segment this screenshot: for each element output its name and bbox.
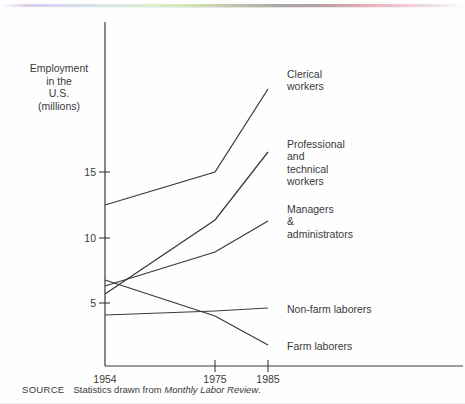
series-line-non-farm-laborers <box>105 308 268 315</box>
source-caption: SOURCEStatistics drawn from Monthly Labo… <box>22 384 261 395</box>
series-label-clerical-workers: Clerical workers <box>287 68 324 93</box>
y-tick-label-5: 5 <box>74 297 96 309</box>
source-period: . <box>258 384 261 395</box>
y-axis-title: Employment in the U.S. (millions) <box>18 62 100 112</box>
chart-plot-svg <box>0 0 465 404</box>
source-keyword: SOURCE <box>22 384 64 395</box>
line-chart: Employment in the U.S. (millions) 15 10 … <box>0 0 465 404</box>
source-text: Statistics drawn from <box>73 384 164 395</box>
series-label-professional-and-technical-workers: Professional and technical workers <box>287 138 345 188</box>
series-line-clerical <box>105 89 268 205</box>
series-label-farm-laborers: Farm laborers <box>287 340 352 352</box>
series-line-managers-administrators <box>105 221 268 286</box>
series-label-non-farm-laborers: Non-farm laborers <box>287 303 372 315</box>
series-line-professional-technical <box>105 152 268 294</box>
y-tick-label-15: 15 <box>74 166 96 178</box>
y-tick-label-10: 10 <box>74 232 96 244</box>
series-label-managers-and-administrators: Managers & administrators <box>287 203 353 240</box>
source-publication-name: Monthly Labor Review <box>164 384 258 395</box>
